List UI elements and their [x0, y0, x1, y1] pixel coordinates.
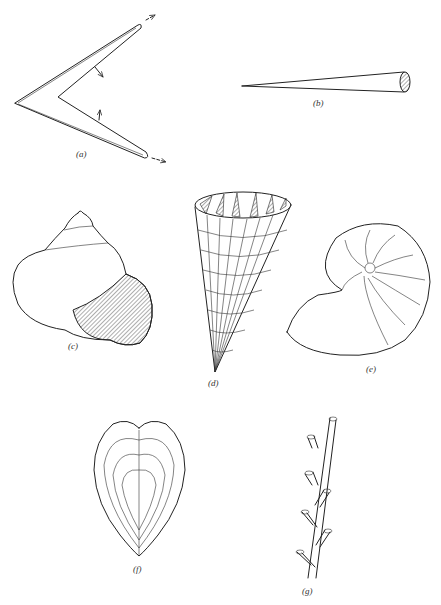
label-f: (f) [133, 564, 142, 574]
panel-a-chevron: (a) [15, 15, 166, 162]
panel-d-cone: (d) [195, 192, 291, 388]
panel-g-colony: (g) [296, 417, 337, 596]
label-d: (d) [208, 378, 219, 388]
panel-e-nautilus: (e) [287, 224, 430, 374]
label-b: (b) [313, 98, 324, 108]
panel-c-snail: (c) [13, 211, 152, 351]
label-e: (e) [366, 364, 376, 374]
panel-b-cone: (b) [242, 72, 410, 108]
figure-canvas: (a) (b) (c) (d) [0, 0, 441, 605]
label-c: (c) [68, 341, 78, 351]
panel-f-bivalve: (f) [94, 421, 185, 574]
label-g: (g) [302, 586, 313, 596]
label-a: (a) [76, 149, 87, 159]
